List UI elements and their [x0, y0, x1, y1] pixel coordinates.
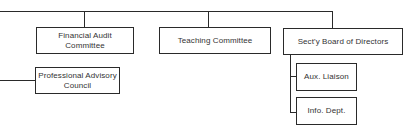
node-label: Teaching Committee — [178, 36, 253, 46]
node-label-line1: Financial Audit — [58, 31, 112, 41]
node-label: Info. Dept. — [307, 106, 345, 116]
secty-board-trunk — [290, 55, 291, 113]
top-bus-line — [0, 11, 333, 12]
connector-financial-audit — [84, 11, 85, 27]
node-aux-liaison: Aux. Liaison — [296, 63, 357, 91]
node-label-line1: Professional Advisory — [38, 71, 117, 81]
node-secty-board-of-directors: Sect'y Board of Directors — [283, 28, 403, 55]
node-financial-audit-committee: Financial Audit Committee — [36, 27, 134, 54]
connector-secty-board — [332, 11, 333, 28]
node-label: Sect'y Board of Directors — [298, 37, 389, 47]
connector-teaching — [208, 11, 209, 27]
node-info-dept: Info. Dept. — [296, 97, 357, 125]
node-label: Aux. Liaison — [304, 72, 349, 82]
node-professional-advisory-council: Professional Advisory Council — [35, 67, 120, 94]
node-teaching-committee: Teaching Committee — [159, 27, 271, 54]
node-label-line2: Committee — [58, 41, 112, 51]
connector-professional-advisory — [0, 80, 35, 81]
node-label-line2: Council — [38, 81, 117, 91]
